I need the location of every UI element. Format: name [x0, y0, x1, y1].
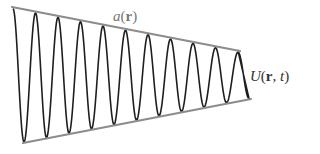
wave-label-arg1: r: [266, 68, 273, 84]
envelope-label-close: ): [132, 8, 137, 24]
envelope-bottom-line: [23, 99, 251, 143]
wave-label-sep: ,: [273, 68, 281, 84]
envelope-label-func: a: [113, 8, 121, 24]
envelope-label: a(r): [113, 9, 137, 24]
wave-label-close: ): [284, 68, 289, 84]
wave-label-func: U: [250, 68, 261, 84]
wave-label: U(r, t): [250, 69, 289, 84]
